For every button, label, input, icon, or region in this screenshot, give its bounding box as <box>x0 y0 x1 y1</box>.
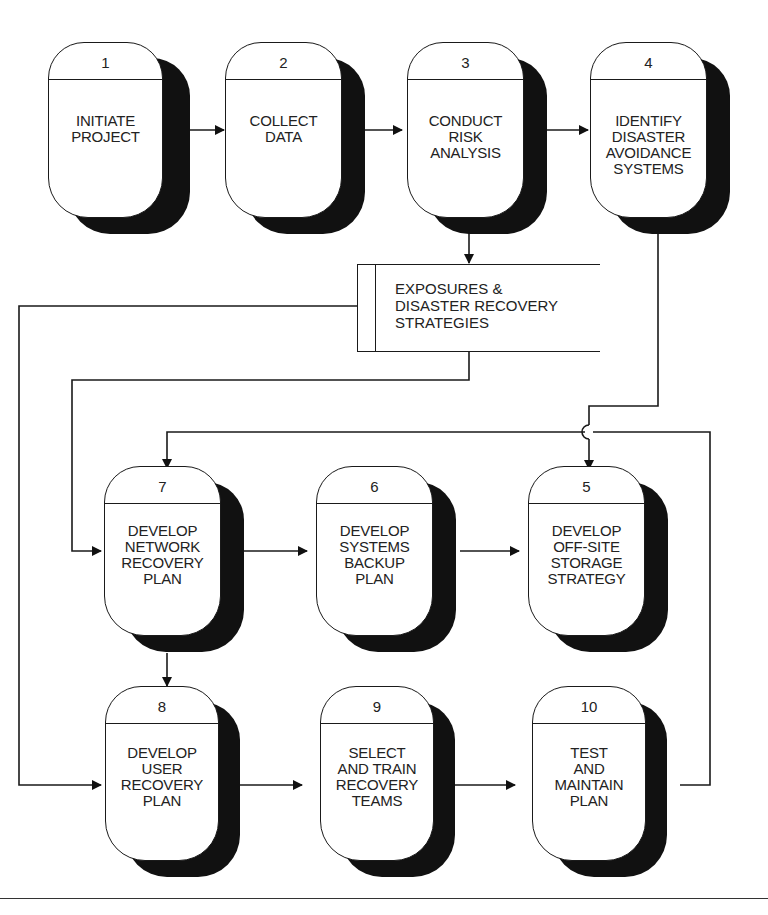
node-number: 8 <box>106 687 218 724</box>
node-label: COLLECT DATA <box>228 113 339 145</box>
node-number: 6 <box>317 467 432 504</box>
node-number: 5 <box>529 467 644 504</box>
bottom-divider <box>0 898 768 899</box>
node-number: 3 <box>408 43 523 80</box>
node-box: 3 CONDUCT RISK ANALYSIS <box>407 42 524 218</box>
store-bottom-line <box>357 351 600 352</box>
node-number: 10 <box>533 687 645 724</box>
node-label: SELECT AND TRAIN RECOVERY TEAMS <box>323 745 431 809</box>
store-top-line <box>357 264 600 265</box>
node-label: DEVELOP SYSTEMS BACKUP PLAN <box>319 523 430 587</box>
node-box: 6 DEVELOP SYSTEMS BACKUP PLAN <box>316 466 433 636</box>
node-box: 4 IDENTIFY DISASTER AVOIDANCE SYSTEMS <box>590 42 707 218</box>
process-flow-diagram: 1 INITIATE PROJECT 2 COLLECT DATA 3 COND… <box>0 0 768 915</box>
node-box: 7 DEVELOP NETWORK RECOVERY PLAN <box>104 466 221 636</box>
node-box: 1 INITIATE PROJECT <box>48 42 163 218</box>
store-id-cell <box>357 264 376 352</box>
node-number: 7 <box>105 467 220 504</box>
node-label: INITIATE PROJECT <box>51 113 160 145</box>
node-box: 9 SELECT AND TRAIN RECOVERY TEAMS <box>320 686 434 861</box>
node-box: 8 DEVELOP USER RECOVERY PLAN <box>105 686 219 861</box>
node-label: DEVELOP OFF-SITE STORAGE STRATEGY <box>531 523 642 587</box>
data-store-exposures: EXPOSURES & DISASTER RECOVERY STRATEGIES <box>357 264 600 352</box>
node-label: DEVELOP USER RECOVERY PLAN <box>108 745 216 809</box>
node-number: 9 <box>321 687 433 724</box>
node-box: 2 COLLECT DATA <box>225 42 342 218</box>
node-label: DEVELOP NETWORK RECOVERY PLAN <box>107 523 218 587</box>
node-number: 2 <box>226 43 341 80</box>
node-label: CONDUCT RISK ANALYSIS <box>410 113 521 161</box>
node-label: IDENTIFY DISASTER AVOIDANCE SYSTEMS <box>593 113 704 177</box>
node-box: 5 DEVELOP OFF-SITE STORAGE STRATEGY <box>528 466 645 636</box>
store-label: EXPOSURES & DISASTER RECOVERY STRATEGIES <box>395 280 558 331</box>
node-box: 10 TEST AND MAINTAIN PLAN <box>532 686 646 861</box>
node-label: TEST AND MAINTAIN PLAN <box>535 745 643 809</box>
node-number: 1 <box>49 43 162 80</box>
node-number: 4 <box>591 43 706 80</box>
